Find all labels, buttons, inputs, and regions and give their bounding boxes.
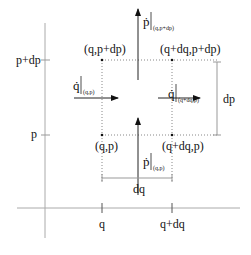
label-corner-top-left: (q,p+dp) [84,42,126,56]
label-q: q [99,217,105,231]
label-p-dot-top: ṗ [143,14,150,29]
label-p-dp: p+dp [16,53,41,67]
dq-bracket [102,174,172,182]
label-p: p [31,127,37,141]
label-q-dot-left: q̇ [73,78,80,93]
label-q-dot-right-sub: (q+dq,p) [178,97,199,104]
label-p-dot-bottom: ṗ [143,154,150,169]
label-corner-bottom-left: (q,p) [95,139,118,153]
point-q-p [101,134,104,137]
point-q-dq-p [171,134,174,137]
label-q-dot-left-sub: (q,p) [83,89,95,96]
diagram-svg: p+dp p q q+dq (q,p+dp) (q+dq,p+dp) (q,p)… [0,0,251,255]
label-corner-top-right: (q+dq,p+dp) [160,42,221,56]
label-dp: dp [223,92,235,106]
label-q-dot-right: q̇ [168,86,175,101]
phase-cell [102,60,218,182]
point-q-p-dp [101,59,104,62]
label-q-dq: q+dq [160,217,185,231]
point-q-dq-p-dp [171,59,174,62]
label-corner-bottom-right: (q+dq,p) [162,139,204,153]
label-p-dot-bottom-sub: (q,p) [153,165,165,172]
label-dq: dq [133,182,145,196]
dp-bracket [213,62,221,135]
label-p-dot-top-sub: (q,p+dp) [153,25,174,32]
phase-space-diagram: p+dp p q q+dq (q,p+dp) (q+dq,p+dp) (q,p)… [0,0,251,255]
